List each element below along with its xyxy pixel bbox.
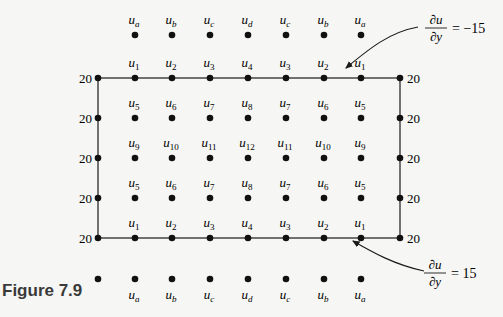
bottom-derivative-denominator: ∂y [429, 274, 441, 289]
interior-node [132, 235, 139, 242]
ghost-node-label: ub [318, 12, 330, 29]
interior-node [207, 75, 214, 82]
interior-node [358, 115, 365, 122]
ghost-node-label: ua [355, 287, 367, 304]
interior-node-label: u1 [355, 55, 366, 72]
ghost-node-label: uc [280, 12, 291, 29]
interior-node [207, 115, 214, 122]
ghost-node [169, 32, 176, 39]
interior-node [358, 195, 365, 202]
left-boundary-value: 20 [79, 191, 92, 206]
boundary-node-left [95, 195, 102, 202]
interior-node-label: u2 [318, 55, 329, 72]
interior-node [358, 75, 365, 82]
interior-node-label: u5 [129, 175, 141, 192]
interior-node-label: u3 [280, 215, 292, 232]
boundary-node-right [397, 155, 404, 162]
ghost-node [132, 276, 139, 283]
bottom-neumann-annotation: ∂u ∂y = 15 [353, 241, 476, 289]
interior-node [132, 115, 139, 122]
ghost-node-label: ua [355, 12, 367, 29]
interior-node-label: u1 [355, 215, 366, 232]
interior-node-label: u1 [129, 215, 140, 232]
ghost-node-label: ua [129, 287, 141, 304]
left-boundary-value: 20 [79, 151, 92, 166]
interior-node [283, 195, 290, 202]
interior-node-label: u9 [129, 135, 141, 152]
ghost-node-label: uc [204, 287, 215, 304]
interior-node [321, 235, 328, 242]
top-neumann-annotation: ∂u ∂y = −15 [346, 12, 485, 68]
boundary-node-right [397, 195, 404, 202]
right-boundary-value: 20 [407, 231, 420, 246]
figure-label: Figure 7.9 [2, 281, 82, 301]
interior-node-label: u7 [280, 95, 292, 112]
ghost-node [321, 276, 328, 283]
ghost-node [358, 276, 365, 283]
interior-node [245, 75, 252, 82]
ghost-node-label: ud [242, 12, 254, 29]
ghost-node [245, 32, 252, 39]
ghost-node [283, 276, 290, 283]
interior-node [283, 155, 290, 162]
interior-node [358, 235, 365, 242]
interior-node [321, 75, 328, 82]
interior-node-label: u5 [355, 175, 367, 192]
interior-node-label: u4 [242, 215, 254, 232]
interior-node-label: u3 [280, 55, 292, 72]
interior-node-label: u11 [277, 135, 292, 152]
interior-node-label: u1 [129, 55, 140, 72]
interior-node [169, 115, 176, 122]
interior-node [245, 155, 252, 162]
left-boundary-value: 20 [79, 111, 92, 126]
bottom-derivative-numerator: ∂u [429, 257, 442, 272]
ghost-node [321, 32, 328, 39]
interior-node-label: u8 [242, 95, 254, 112]
ghost-node-label: ub [166, 287, 178, 304]
boundary-node-right [397, 115, 404, 122]
interior-node-label: u3 [204, 55, 216, 72]
ghost-node-label: ud [242, 287, 254, 304]
interior-node [321, 155, 328, 162]
ghost-corner-node [95, 276, 102, 283]
interior-node [245, 195, 252, 202]
interior-node [358, 155, 365, 162]
right-boundary-value: 20 [407, 71, 420, 86]
left-boundary-value: 20 [79, 231, 92, 246]
interior-node-label: u10 [163, 135, 179, 152]
boundary-node-left [95, 235, 102, 242]
bottom-derivative-value: = 15 [451, 266, 476, 281]
boundary-node-left [95, 115, 102, 122]
interior-node-label: u5 [129, 95, 141, 112]
boundary-node-right [397, 235, 404, 242]
interior-node-label: u2 [166, 55, 177, 72]
interior-node-label: u7 [204, 175, 216, 192]
ghost-node [169, 276, 176, 283]
interior-node-label: u2 [166, 215, 177, 232]
interior-node [207, 195, 214, 202]
interior-node-label: u6 [166, 95, 178, 112]
boundary-node-left [95, 155, 102, 162]
left-boundary-value: 20 [79, 71, 92, 86]
interior-node-label: u10 [315, 135, 331, 152]
interior-node-label: u6 [166, 175, 178, 192]
top-derivative-denominator: ∂y [430, 29, 442, 44]
interior-node [132, 155, 139, 162]
ghost-node [132, 32, 139, 39]
interior-node [207, 155, 214, 162]
interior-node [132, 75, 139, 82]
ghost-node [207, 32, 214, 39]
interior-node [283, 115, 290, 122]
interior-node [207, 235, 214, 242]
interior-node-label: u12 [239, 135, 255, 152]
interior-node-label: u8 [242, 175, 254, 192]
ghost-node [207, 276, 214, 283]
interior-node [132, 195, 139, 202]
interior-node-label: u9 [355, 135, 367, 152]
right-boundary-value: 20 [407, 151, 420, 166]
finite-difference-grid-diagram: uaubucuducubuau1u2u3u4u3u2u1u5u6u7u8u7u6… [0, 0, 503, 317]
ghost-node [283, 32, 290, 39]
top-derivative-value: = −15 [452, 21, 485, 36]
interior-node-label: u2 [318, 215, 329, 232]
interior-node [245, 235, 252, 242]
